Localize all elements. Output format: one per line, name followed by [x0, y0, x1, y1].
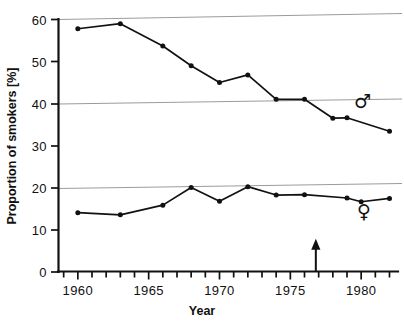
male-symbol-icon: ♂	[354, 90, 371, 112]
data-point-female-1968	[189, 185, 194, 190]
y-tick-label-30: 30	[32, 139, 47, 154]
data-point-male-1968	[189, 63, 194, 68]
gridlines	[58, 14, 402, 189]
y-tick-label-0: 0	[39, 265, 47, 280]
data-point-male-1974	[274, 97, 279, 102]
gridline-40	[58, 99, 402, 104]
data-point-male-1963	[118, 21, 123, 26]
data-point-male-1976	[302, 97, 307, 102]
series-male	[75, 21, 392, 134]
axes	[58, 19, 398, 272]
data-point-female-1976	[302, 192, 307, 197]
female-symbol-icon: ♀	[357, 200, 371, 222]
x-tick-label-1970: 1970	[204, 283, 235, 298]
series-female	[75, 184, 392, 217]
y-tick-label-10: 10	[32, 223, 47, 238]
x-axis-title: Year	[189, 304, 216, 318]
series-line-male	[78, 24, 390, 132]
arrow-head-icon	[313, 241, 319, 249]
data-point-female-1974	[274, 193, 279, 198]
annotation-layer	[313, 241, 319, 271]
y-tick-label-50: 50	[32, 55, 47, 70]
data-point-female-1979	[345, 196, 350, 201]
y-tick-label-40: 40	[32, 97, 47, 112]
x-tick-label-1975: 1975	[275, 283, 306, 298]
gridline-20	[58, 184, 402, 189]
data-point-male-1972	[245, 72, 250, 77]
y-axis-tick-labels: 0 10 20 30 40 50 60	[32, 13, 47, 281]
data-point-female-1982	[387, 196, 392, 201]
data-point-male-1960	[75, 26, 80, 31]
x-tick-label-1980: 1980	[346, 283, 377, 298]
data-point-male-1966	[160, 43, 165, 48]
data-point-female-1972	[245, 184, 250, 189]
line-chart: 0 10 20 30 40 50 60 19601965197019751980…	[0, 0, 404, 324]
data-point-male-1978	[330, 116, 335, 121]
y-tick-label-20: 20	[32, 181, 47, 196]
data-point-male-1982	[387, 129, 392, 134]
x-axis-ticks	[64, 272, 390, 280]
x-axis-tick-labels: 19601965197019751980	[63, 283, 377, 298]
series-line-female	[78, 187, 390, 215]
y-axis-ticks	[51, 20, 58, 273]
chart-container: 0 10 20 30 40 50 60 19601965197019751980…	[0, 0, 404, 324]
data-point-female-1963	[118, 212, 123, 217]
data-point-female-1966	[160, 203, 165, 208]
y-tick-label-60: 60	[32, 13, 47, 28]
data-point-female-1960	[75, 210, 80, 215]
y-axis-title: Proportion of smokers [%]	[5, 68, 19, 225]
data-point-male-1970	[217, 80, 222, 85]
event-arrow	[313, 241, 319, 271]
data-point-female-1970	[217, 199, 222, 204]
legend-layer: ♂♀	[354, 90, 371, 222]
gridline-60	[58, 14, 402, 20]
data-point-male-1979	[345, 115, 350, 120]
x-tick-label-1965: 1965	[133, 283, 164, 298]
x-tick-label-1960: 1960	[63, 283, 94, 298]
